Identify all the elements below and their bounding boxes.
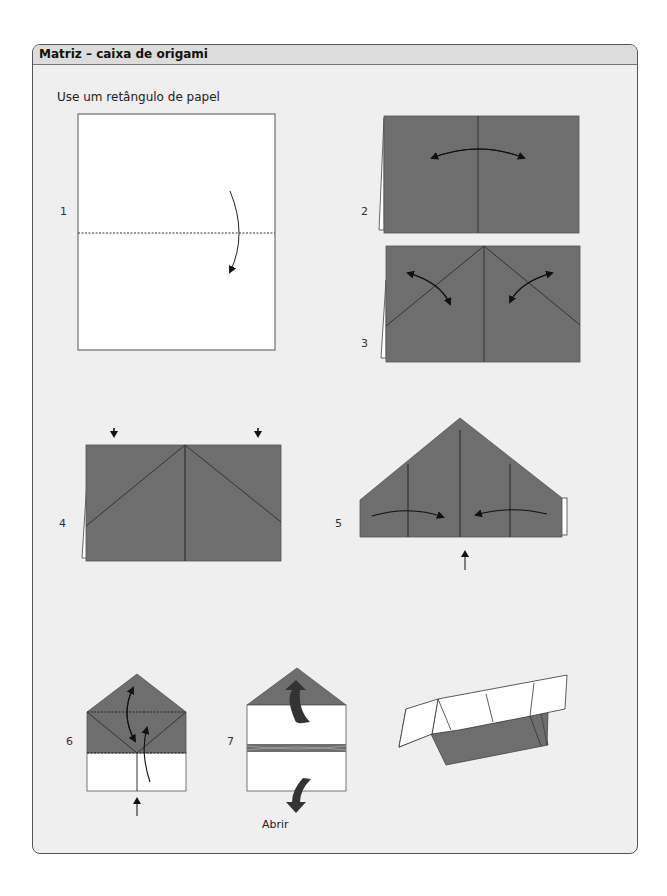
step-6-diagram bbox=[87, 674, 186, 816]
step-number: 2 bbox=[361, 205, 368, 218]
step-2-diagram bbox=[379, 116, 579, 233]
open-label: Abrir bbox=[262, 818, 289, 831]
step-number: 6 bbox=[66, 735, 73, 748]
step-number: 3 bbox=[361, 337, 368, 350]
step-3-diagram bbox=[381, 246, 580, 362]
step-number: 1 bbox=[60, 205, 67, 218]
step-4-diagram bbox=[82, 428, 281, 561]
step-number: 5 bbox=[335, 517, 342, 530]
step-5-diagram bbox=[360, 418, 567, 570]
finished-box-diagram bbox=[399, 675, 567, 765]
step-number: 4 bbox=[59, 517, 66, 530]
origami-diagrams bbox=[0, 0, 667, 896]
step-1-diagram bbox=[78, 114, 275, 350]
step-7-diagram bbox=[247, 668, 346, 813]
step-number: 7 bbox=[227, 735, 234, 748]
